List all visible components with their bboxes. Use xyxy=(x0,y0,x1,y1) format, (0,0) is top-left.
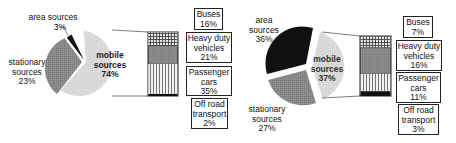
box-value: 16% xyxy=(397,61,441,71)
box-value: 7% xyxy=(404,28,432,38)
right-bar-heavy-duty xyxy=(361,48,391,74)
left-label-stationary-sources: stationary sources 23% xyxy=(0,58,54,87)
left-label-mobile-sources: mobile sources 74% xyxy=(88,51,132,80)
label-value: 74% xyxy=(88,70,132,80)
right-label-mobile-sources: mobile sources 37% xyxy=(307,55,347,84)
right-breakdown-bar xyxy=(360,36,391,96)
box-value: 3% xyxy=(399,125,438,135)
left-bar-off-road xyxy=(149,94,178,96)
left-box-off-road: Off road transport 2% xyxy=(191,98,228,129)
right-bar-buses xyxy=(361,37,391,48)
box-value: 2% xyxy=(192,119,227,129)
right-bar-passenger-cars xyxy=(361,74,391,91)
right-box-buses: Buses 7% xyxy=(403,16,433,38)
right-box-passenger-cars: Passenger cars 11% xyxy=(396,72,441,103)
right-box-heavy-duty: Heavy duty vehicles 16% xyxy=(396,40,442,71)
right-label-area-sources: area sources 36% xyxy=(244,16,284,45)
label-value: 37% xyxy=(307,74,347,84)
label-value: 3% xyxy=(24,23,82,33)
label-text: area sources xyxy=(24,13,82,23)
box-value: 21% xyxy=(187,53,231,63)
left-box-heavy-duty: Heavy duty vehicles 21% xyxy=(186,32,232,63)
left-breakdown-bar xyxy=(148,32,178,96)
left-box-passenger-cars: Passenger cars 35% xyxy=(186,66,232,96)
left-box-buses: Buses 16% xyxy=(194,8,223,30)
label-value: 27% xyxy=(242,124,292,134)
left-bar-passenger-cars xyxy=(149,64,178,94)
left-bar-buses xyxy=(149,33,178,46)
box-value: 35% xyxy=(187,87,231,97)
label-value: 36% xyxy=(244,35,284,45)
left-bar-heavy-duty xyxy=(149,46,178,64)
label-value: 23% xyxy=(0,77,54,87)
right-bar-off-road xyxy=(361,91,391,96)
box-value: 16% xyxy=(195,20,222,30)
right-box-off-road: Off road transport 3% xyxy=(398,104,439,135)
box-value: 11% xyxy=(397,93,440,103)
right-label-stationary-sources: stationary sources 27% xyxy=(242,105,292,134)
left-label-area-sources: area sources 3% xyxy=(24,13,82,32)
